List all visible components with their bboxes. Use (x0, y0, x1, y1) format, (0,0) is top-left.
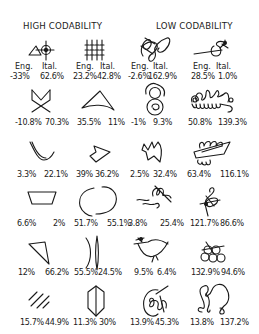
value-ital: 137.2% (220, 318, 249, 327)
value-eng: 2.5% (130, 170, 149, 179)
bird-curve-glyph (132, 234, 172, 264)
value-eng: 15.7% (20, 318, 44, 327)
value-eng: 11.3% (73, 318, 97, 327)
open-ellipse-glyph (76, 184, 120, 218)
value-eng: 13.8% (190, 318, 214, 327)
curl-flag-glyph (192, 136, 236, 168)
curved-triangle-glyph (80, 88, 116, 112)
value-eng: 3.8% (128, 219, 147, 228)
circle-scribble-glyph (140, 284, 174, 318)
vertical-hatch-glyph (84, 38, 106, 62)
paren-bar-glyph (84, 234, 104, 272)
value-ital: 70.3% (45, 118, 69, 127)
value-ital: 1.0% (218, 72, 237, 81)
value-eng: -10.8% (15, 118, 42, 127)
col-label-eng: Eng. (193, 62, 211, 71)
value-eng: 13.9% (130, 318, 154, 327)
hexagon-split-glyph (86, 284, 106, 318)
value-ital: 162.9% (148, 72, 177, 81)
value-ital: 2% (53, 219, 65, 228)
value-ital: 11% (108, 118, 125, 127)
value-eng: 6.6% (17, 219, 36, 228)
value-eng: -2.6% (128, 72, 150, 81)
value-ital: 44.9% (45, 318, 69, 327)
value-ital: 36.2% (95, 170, 119, 179)
value-ital: 24.5% (98, 268, 122, 277)
col-label-ital: Ital. (42, 62, 57, 71)
col-label-eng: Eng. (76, 62, 94, 71)
col-label-ital: Ital. (100, 62, 115, 71)
value-ital: 62.6% (40, 72, 64, 81)
value-ital: 86.6% (220, 219, 244, 228)
value-eng: 132.9% (191, 268, 220, 277)
value-ital: 22.1% (44, 170, 68, 179)
value-eng: 121.7% (190, 219, 219, 228)
header-low-codability: LOW CODABILITY (156, 21, 233, 31)
value-eng: 51.7% (74, 219, 98, 228)
value-eng: 12% (18, 268, 35, 277)
value-eng: 35.5% (77, 118, 101, 127)
loop-chain-glyph (188, 86, 236, 116)
value-ital: 66.2% (45, 268, 69, 277)
value-ital: 94.6% (221, 268, 245, 277)
crossed-m-glyph (28, 86, 54, 114)
value-ital: 42.8% (97, 72, 121, 81)
line-curl-glyph (192, 38, 234, 62)
value-ital: 30% (99, 318, 116, 327)
value-ital: 32.4% (153, 170, 177, 179)
value-eng: 23.2% (73, 72, 97, 81)
diagonal-hatch-glyph (27, 290, 51, 310)
wedge-glyph (27, 240, 53, 266)
triangle-crosshair-glyph (26, 38, 56, 62)
double-v-curve-glyph (28, 140, 56, 164)
value-eng: 63.4% (187, 170, 211, 179)
grape-cluster-glyph (198, 240, 228, 266)
double-loop-glyph (194, 282, 234, 318)
value-eng: 3.3% (17, 170, 36, 179)
value-ital: 45.3% (155, 318, 179, 327)
value-ital: 6.4% (157, 268, 176, 277)
value-eng: 28.5% (191, 72, 215, 81)
wave-swirl-glyph (135, 184, 175, 212)
value-ital: 9.3% (153, 118, 172, 127)
value-ital: 116.1% (220, 170, 249, 179)
header-high-codability: HIGH CODABILITY (23, 21, 102, 31)
value-ital: 139.3% (218, 118, 247, 127)
value-eng: 39% (76, 170, 93, 179)
value-eng: -33% (10, 72, 29, 81)
value-eng: 9.5% (134, 268, 153, 277)
value-eng: 50.8% (188, 118, 212, 127)
pentagon-kite-glyph (86, 144, 114, 164)
value-eng: -1% (131, 118, 146, 127)
stacked-circles-glyph (140, 82, 170, 118)
col-label-ital: Ital. (216, 62, 231, 71)
value-eng: 55.5% (74, 268, 98, 277)
treble-knot-glyph (196, 186, 224, 218)
trapezoid-glyph (26, 190, 58, 208)
scribble-loop-glyph (137, 34, 173, 64)
value-ital: 25.4% (160, 219, 184, 228)
col-label-eng: Eng. (15, 62, 33, 71)
zigzag-blob-glyph (140, 138, 166, 166)
